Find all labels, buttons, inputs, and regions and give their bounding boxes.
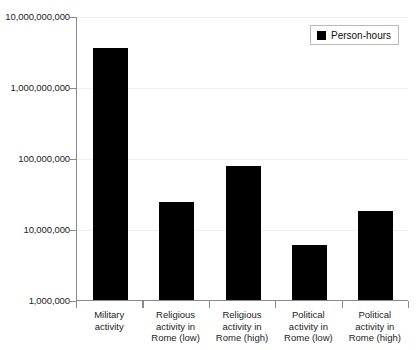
legend-label-person-hours: Person-hours: [331, 30, 391, 41]
bar-chart: 10,000,000,0001,000,000,000100,000,00010…: [0, 0, 417, 350]
bar: [93, 48, 128, 300]
x-axis-category-label-line: activity in: [275, 321, 341, 333]
x-axis-category-label-line: Rome (low): [142, 332, 208, 344]
bar: [226, 166, 261, 300]
legend-swatch-person-hours: [317, 31, 326, 40]
x-axis-category-label: Militaryactivity: [76, 309, 142, 332]
x-axis-tick-mark: [76, 301, 77, 308]
x-axis-tick-mark: [275, 301, 276, 308]
plot-area: [76, 17, 408, 301]
bar: [292, 245, 327, 300]
y-axis-tick-mark: [70, 88, 76, 89]
x-axis-category-label-line: activity: [76, 321, 142, 333]
x-axis-category-label: Religiousactivity inRome (high): [209, 309, 275, 344]
x-axis-category-label-line: activity in: [209, 321, 275, 333]
x-axis-category-label-line: activity in: [342, 321, 408, 333]
x-axis-category-label-line: Rome (high): [342, 332, 408, 344]
y-axis-tick-mark: [70, 230, 76, 231]
y-axis-tick-label: 10,000,000: [23, 224, 70, 235]
x-axis-category-label: Religiousactivity inRome (low): [142, 309, 208, 344]
y-axis-tick-label: 1,000,000: [29, 295, 70, 306]
x-axis-category-label-line: Religious: [209, 309, 275, 321]
gridline: [77, 17, 408, 18]
x-axis-tick-mark: [142, 301, 143, 308]
y-axis-tick-label: 100,000,000: [18, 153, 70, 164]
x-axis-category-label: Politicalactivity inRome (high): [342, 309, 408, 344]
x-axis-category-label: Politicalactivity inRome (low): [275, 309, 341, 344]
x-axis-category-label-line: Political: [342, 309, 408, 321]
x-axis-category-label-line: activity in: [142, 321, 208, 333]
x-axis-tick-mark: [342, 301, 343, 308]
x-axis-category-label-line: Rome (high): [209, 332, 275, 344]
y-axis-tick-label: 1,000,000,000: [11, 82, 70, 93]
x-axis-category-label-line: Religious: [142, 309, 208, 321]
x-axis-tick-mark: [209, 301, 210, 308]
x-axis-category-label-line: Political: [275, 309, 341, 321]
y-axis-tick-mark: [70, 159, 76, 160]
bar: [358, 211, 393, 300]
chart-legend: Person-hours: [310, 25, 399, 45]
bar: [159, 202, 194, 300]
x-axis-tick-mark: [408, 301, 409, 308]
y-axis-tick-label: 10,000,000,000: [5, 11, 70, 22]
x-axis-category-label-line: Rome (low): [275, 332, 341, 344]
y-axis-tick-mark: [70, 17, 76, 18]
x-axis-category-label-line: Military: [76, 309, 142, 321]
